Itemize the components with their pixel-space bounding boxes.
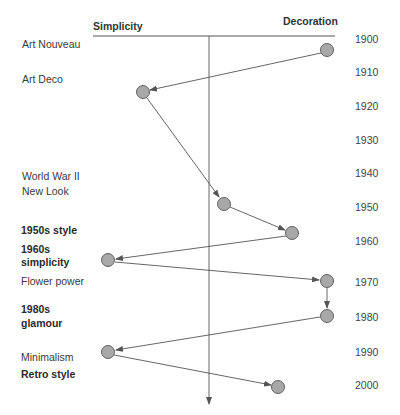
- connection-arrows: [114, 53, 327, 385]
- node-flower-power: [321, 275, 334, 288]
- node-1980s-glamour: [321, 310, 334, 323]
- timeline-diagram: [0, 0, 400, 415]
- node-art-deco: [137, 86, 150, 99]
- node-minimalism: [102, 346, 115, 359]
- node-art-nouveau: [321, 44, 334, 57]
- node-retro-style: [272, 381, 285, 394]
- node-1960s-simplicity: [102, 254, 115, 267]
- node-1950s-style: [286, 227, 299, 240]
- node-new-look: [218, 198, 231, 211]
